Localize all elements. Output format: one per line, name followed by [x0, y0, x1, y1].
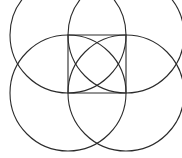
figure-svg: [0, 0, 182, 158]
central-square: [68, 35, 126, 93]
geometric-figure-canvas: [0, 0, 182, 158]
